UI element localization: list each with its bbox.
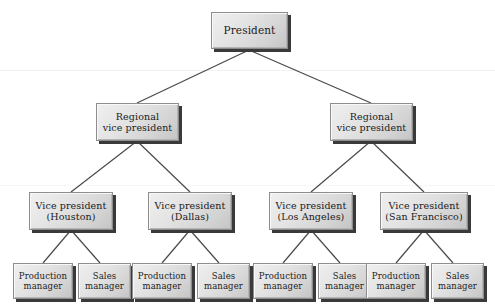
edge-president-regional-right: [249, 50, 371, 103]
edge-los-angeles-production: [283, 230, 311, 263]
node-regional-vice-president-right-label: Regional vice president: [337, 111, 407, 133]
node-sales-manager-dallas-label: Sales manager: [204, 271, 243, 291]
edge-los-angeles-sales: [311, 230, 340, 263]
edge-dallas-sales: [190, 230, 219, 263]
node-production-manager-san-francisco-label: Production manager: [372, 271, 420, 291]
node-sales-manager-houston[interactable]: Sales manager: [78, 263, 131, 299]
edge-houston-production: [43, 230, 71, 263]
edge-regional-left-dallas: [137, 141, 190, 192]
node-vice-president-san-francisco[interactable]: Vice president (San Francisco): [380, 192, 468, 230]
edge-houston-sales: [71, 230, 100, 263]
node-production-manager-houston[interactable]: Production manager: [13, 263, 73, 299]
node-vice-president-dallas[interactable]: Vice president (Dallas): [148, 192, 232, 230]
edge-regional-right-san-francisco: [371, 141, 424, 192]
edge-dallas-production: [162, 230, 190, 263]
node-regional-vice-president-right[interactable]: Regional vice president: [330, 103, 413, 141]
node-vice-president-houston[interactable]: Vice president (Houston): [29, 192, 113, 230]
edge-regional-left-houston: [71, 141, 137, 192]
node-vice-president-los-angeles-label: Vice president (Los Angeles): [276, 200, 347, 222]
node-regional-vice-president-left[interactable]: Regional vice president: [96, 103, 179, 141]
edge-regional-right-los-angeles: [311, 141, 371, 192]
node-vice-president-san-francisco-label: Vice president (San Francisco): [385, 200, 462, 222]
node-president-label: President: [224, 24, 276, 36]
node-regional-vice-president-left-label: Regional vice president: [103, 111, 173, 133]
node-sales-manager-san-francisco[interactable]: Sales manager: [431, 263, 484, 299]
node-sales-manager-dallas[interactable]: Sales manager: [197, 263, 250, 299]
node-production-manager-los-angeles-label: Production manager: [259, 271, 307, 291]
node-sales-manager-san-francisco-label: Sales manager: [438, 271, 477, 291]
node-sales-manager-los-angeles[interactable]: Sales manager: [318, 263, 371, 299]
node-production-manager-dallas[interactable]: Production manager: [132, 263, 192, 299]
edge-san-francisco-production: [396, 230, 424, 263]
node-production-manager-dallas-label: Production manager: [138, 271, 186, 291]
node-vice-president-los-angeles[interactable]: Vice president (Los Angeles): [269, 192, 353, 230]
org-chart-canvas: President Regional vice president Region…: [0, 0, 495, 307]
edge-president-regional-left: [137, 50, 249, 103]
edge-san-francisco-sales: [424, 230, 453, 263]
node-production-manager-houston-label: Production manager: [19, 271, 67, 291]
node-sales-manager-los-angeles-label: Sales manager: [325, 271, 364, 291]
node-vice-president-houston-label: Vice president (Houston): [36, 200, 107, 222]
node-sales-manager-houston-label: Sales manager: [85, 271, 124, 291]
node-vice-president-dallas-label: Vice president (Dallas): [155, 200, 226, 222]
node-president[interactable]: President: [211, 12, 288, 49]
node-production-manager-san-francisco[interactable]: Production manager: [366, 263, 426, 299]
node-production-manager-los-angeles[interactable]: Production manager: [253, 263, 313, 299]
